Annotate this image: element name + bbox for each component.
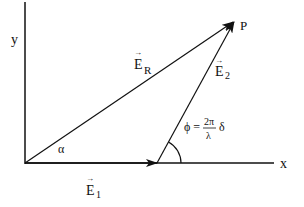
alpha-label: α [58, 142, 65, 156]
x-axis-label: x [280, 156, 287, 171]
phasor-diagram: y x P α → E R → E 2 → E 1 ϕ = 2π λ δ [0, 0, 304, 207]
e2-subscript: 2 [225, 70, 230, 81]
e2-label: → E 2 [215, 56, 230, 81]
e2-letter: E [215, 64, 224, 79]
er-label: → E R [134, 48, 152, 76]
phase-delta: δ [219, 120, 225, 134]
er-arrow: → [134, 48, 142, 57]
e1-arrow: → [86, 174, 94, 183]
phase-lhs: ϕ = [184, 120, 200, 134]
er-letter: E [134, 57, 143, 72]
er-subscript: R [144, 64, 152, 76]
point-label: P [240, 18, 247, 33]
vector-e2 [157, 22, 234, 163]
phase-angle-arc [169, 142, 182, 163]
vector-er [25, 22, 233, 163]
e1-letter: E [86, 183, 95, 198]
phase-numerator: 2π [204, 116, 214, 127]
e1-subscript: 1 [96, 189, 101, 200]
y-axis-label: y [11, 32, 18, 47]
phase-equation: ϕ = 2π λ δ [184, 116, 225, 141]
phase-denominator: λ [206, 130, 211, 141]
e1-label: → E 1 [86, 174, 101, 200]
